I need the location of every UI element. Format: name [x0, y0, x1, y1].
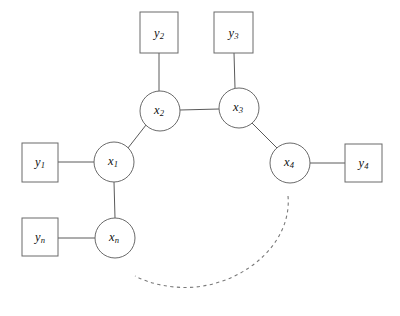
- observed-node-y2[interactable]: y2: [140, 12, 178, 53]
- edge-x1-xn: [114, 182, 115, 218]
- latent-node-xn[interactable]: xn: [95, 218, 135, 258]
- observed-node-y3[interactable]: y3: [214, 12, 253, 53]
- observed-node-y1[interactable]: y1: [22, 143, 58, 182]
- observed-node-y4[interactable]: y4: [345, 144, 382, 182]
- latent-node-x1[interactable]: x1: [94, 142, 134, 182]
- latent-node-x2[interactable]: x2: [140, 91, 180, 131]
- continuation-dashed-arc: [135, 196, 288, 287]
- observed-node-yn[interactable]: yn: [22, 218, 58, 256]
- edge-x1-x2: [128, 125, 146, 148]
- latent-node-x3[interactable]: x3: [219, 88, 259, 128]
- latent-node-x4[interactable]: x4: [270, 143, 310, 183]
- graphical-model-svg: y2 y3 y1 y4 yn: [0, 0, 400, 316]
- diagram-canvas: y2 y3 y1 y4 yn: [0, 0, 400, 316]
- edge-y3-x3: [234, 53, 235, 88]
- edge-x2-x3: [180, 109, 219, 110]
- edge-x3-x4: [252, 123, 277, 148]
- edges-group: [58, 53, 345, 238]
